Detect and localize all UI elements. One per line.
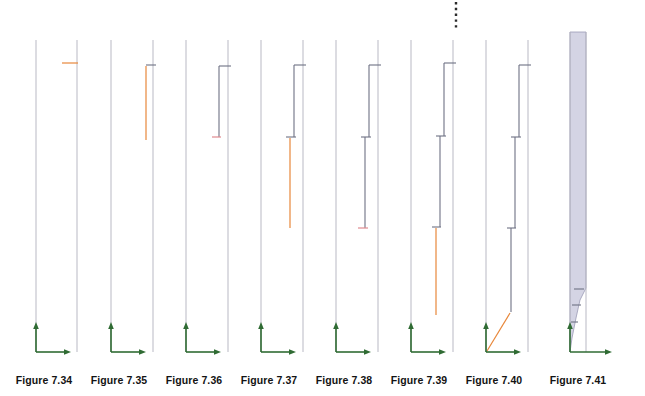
figure-strip: Figure 7.34Figure 7.35Figure 7.36Figure … (0, 0, 645, 396)
x-axis-arrowhead (64, 349, 71, 355)
x-axis-arrowhead (364, 349, 371, 355)
figure-panel-6 (408, 2, 456, 355)
x-axis-arrowhead (289, 349, 296, 355)
figure-panel-7 (483, 40, 531, 355)
figures-svg-canvas (0, 0, 645, 396)
figure-panel-1 (33, 40, 78, 355)
figure-panel-2 (108, 40, 156, 355)
y-axis-arrowhead (258, 322, 264, 329)
figure-caption-7: Figure 7.40 (446, 374, 542, 386)
figure-panel-3 (183, 40, 231, 355)
figure-caption-8: Figure 7.41 (530, 374, 626, 386)
figure-panel-4 (258, 40, 306, 355)
x-axis-arrowhead (439, 349, 446, 355)
y-axis-arrowhead (408, 322, 414, 329)
shaded-region (570, 32, 586, 352)
x-axis-arrowhead (605, 349, 612, 355)
accent-segment-1 (487, 313, 510, 351)
y-axis-arrowhead (108, 322, 114, 329)
y-axis-arrowhead (33, 322, 39, 329)
y-axis-arrowhead (483, 322, 489, 329)
y-axis-arrowhead (183, 322, 189, 329)
figure-panel-8 (567, 32, 612, 355)
y-axis-arrowhead (333, 322, 339, 329)
x-axis-arrowhead (139, 349, 146, 355)
x-axis-arrowhead (514, 349, 521, 355)
x-axis-arrowhead (214, 349, 221, 355)
figure-panel-5 (333, 40, 381, 355)
